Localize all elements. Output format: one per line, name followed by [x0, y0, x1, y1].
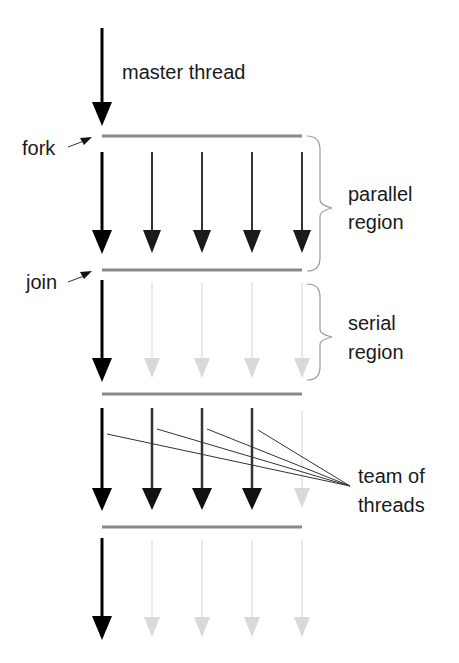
serial-region-label-1: serial — [348, 312, 396, 334]
team-of-threads-label-2: threads — [358, 494, 425, 516]
parallel-region-label-1: parallel — [348, 183, 412, 205]
master-thread-arrow — [92, 28, 112, 126]
serial-region-label-2: region — [348, 341, 404, 363]
parallel-region-brace — [307, 136, 332, 271]
master-thread-label: master thread — [122, 61, 245, 83]
serial-region-arrows — [92, 280, 310, 382]
team-of-threads-label-1: team of — [358, 465, 425, 487]
serial-region-brace — [307, 284, 332, 380]
fork-join-diagram: master thread fork parallel region join — [0, 0, 459, 663]
team-threads-arrows — [92, 408, 310, 511]
join-pointer-arrow — [68, 271, 92, 282]
fork-pointer-arrow — [68, 137, 92, 147]
parallel-region-arrows — [92, 152, 311, 254]
team-pointer-lines — [107, 429, 350, 486]
join-label: join — [25, 271, 57, 293]
fork-label: fork — [22, 137, 56, 159]
final-serial-arrows — [92, 538, 310, 640]
parallel-region-label-2: region — [348, 211, 404, 233]
